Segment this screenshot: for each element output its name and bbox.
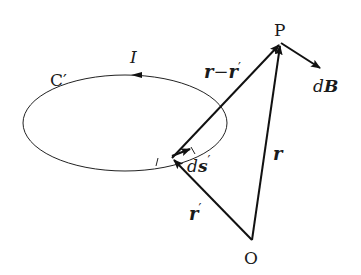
ds-prime-label: ds′	[187, 153, 210, 176]
current-label: I	[129, 47, 137, 67]
loop-label: C′	[50, 70, 67, 90]
r-prime-label: r′	[189, 201, 201, 224]
r-label: r	[273, 143, 284, 164]
current-direction-arrow-icon	[131, 72, 142, 78]
origin-label: O	[244, 248, 258, 268]
dB-vector	[281, 43, 320, 68]
dB-label: dB	[313, 76, 338, 96]
r-prime-vector	[174, 160, 252, 240]
ds-end-tick	[191, 147, 195, 154]
r-minus-r-prime-label: r−r′	[204, 60, 241, 82]
point-p-label: P	[274, 20, 285, 40]
ds-start-tick	[156, 158, 158, 166]
biot-savart-diagram: C′ I P O dB r−r′ r r′ ds′	[0, 0, 361, 275]
